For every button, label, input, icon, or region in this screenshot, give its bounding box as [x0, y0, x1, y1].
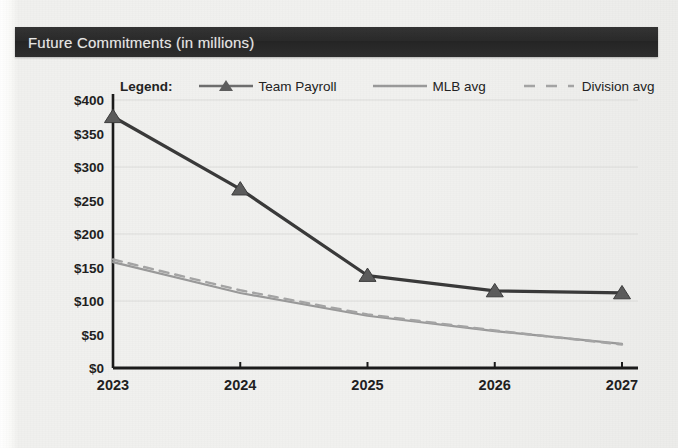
chart-card: Legend: Team Payroll MLB avg Division av…	[15, 57, 658, 412]
x-axis-tick-label: 2025	[351, 377, 383, 393]
y-axis-tick-label: $200	[74, 227, 104, 242]
legend-swatch-mlb-avg	[373, 78, 427, 94]
data-point-marker[interactable]	[232, 182, 249, 195]
x-axis-tick-label: 2027	[606, 377, 638, 393]
series-line-team-payroll	[113, 117, 622, 293]
legend-item-mlb-avg[interactable]: MLB avg	[373, 78, 486, 94]
legend-label: Legend:	[120, 79, 173, 94]
legend-item-team-payroll[interactable]: Team Payroll	[199, 78, 337, 94]
legend-item-division-avg[interactable]: Division avg	[522, 78, 655, 94]
y-axis-tick-label: $150	[74, 261, 104, 276]
legend-swatch-division-avg	[522, 78, 576, 94]
page-title: Future Commitments (in millions)	[15, 34, 254, 51]
y-axis-tick-label: $100	[74, 294, 104, 309]
legend-swatch-team-payroll	[199, 78, 253, 94]
x-axis-tick-label: 2026	[479, 377, 511, 393]
legend-text-division-avg: Division avg	[582, 79, 655, 94]
y-axis-tick-label: $350	[74, 127, 104, 142]
y-axis-tick-label: $0	[89, 361, 104, 376]
legend-text-team-payroll: Team Payroll	[259, 79, 337, 94]
data-point-marker[interactable]	[105, 109, 122, 122]
panel-header: Future Commitments (in millions)	[15, 27, 658, 57]
line-chart-plot: $0$50$100$150$200$250$300$350$4002023202…	[15, 57, 658, 412]
y-axis-tick-label: $300	[74, 160, 104, 175]
y-axis-tick-label: $250	[74, 194, 104, 209]
legend-text-mlb-avg: MLB avg	[433, 79, 486, 94]
chart-legend: Legend: Team Payroll MLB avg Division av…	[15, 75, 658, 97]
x-axis-tick-label: 2023	[97, 377, 129, 393]
x-axis-tick-label: 2024	[224, 377, 256, 393]
y-axis-tick-label: $50	[81, 328, 104, 343]
